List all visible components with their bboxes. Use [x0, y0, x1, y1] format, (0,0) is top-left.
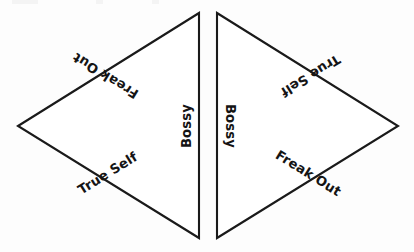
diagram-canvas: Freak Out True Self Bossy Bossy True Sel… — [0, 0, 414, 252]
triangles-diagram: Freak Out True Self Bossy Bossy True Sel… — [0, 0, 414, 252]
right-triangle-shape — [217, 13, 398, 238]
label-left-vertical-bossy: Bossy — [179, 104, 194, 148]
label-right-vertical-bossy: Bossy — [223, 104, 238, 148]
left-triangle-shape — [18, 13, 199, 238]
